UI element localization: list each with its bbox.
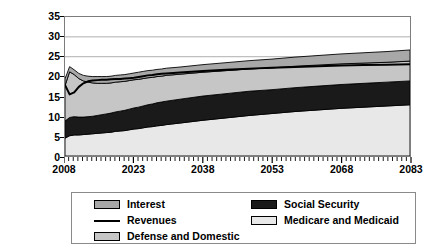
y-axis-tick-mark	[60, 16, 64, 17]
legend-color-swatch	[251, 216, 277, 225]
legend-column-left: InterestRevenuesDefense and Domestic	[94, 197, 240, 245]
y-axis-tick-label: 0	[32, 152, 60, 163]
legend-color-swatch	[251, 200, 277, 209]
legend-label: Medicare and Medicaid	[284, 215, 399, 226]
y-axis-tick-mark	[60, 76, 64, 77]
plot-area	[64, 16, 411, 157]
x-axis-tick-label: 2008	[52, 163, 75, 175]
x-axis-tick-label: 2068	[330, 163, 353, 175]
x-axis-minor-ticks	[64, 157, 413, 164]
legend-color-swatch	[94, 200, 120, 209]
legend-item[interactable]: Social Security	[251, 197, 399, 212]
legend-label: Revenues	[127, 215, 177, 226]
chart-figure: Percentage of Gross Domestic Product 051…	[0, 0, 429, 251]
y-axis-tick-mark	[60, 56, 64, 57]
y-axis-tick-label: 5	[32, 132, 60, 143]
y-axis-tick-mark	[60, 117, 64, 118]
y-axis-tick-mark	[60, 97, 64, 98]
legend-label: Defense and Domestic	[127, 231, 240, 242]
y-axis-tick-label: 20	[32, 71, 60, 82]
y-axis-tick-labels: 05101520253035	[30, 0, 60, 251]
x-axis-tick-label: 2053	[261, 163, 284, 175]
chart-legend: InterestRevenuesDefense and Domestic Soc…	[71, 192, 416, 244]
y-axis-tick-label: 10	[32, 111, 60, 122]
x-axis-tick-label: 2023	[122, 163, 145, 175]
legend-color-swatch	[94, 232, 120, 241]
y-axis-tick-mark	[60, 36, 64, 37]
y-axis-tick-label: 15	[32, 91, 60, 102]
y-axis-tick-label: 30	[32, 31, 60, 42]
legend-line-swatch	[94, 220, 120, 222]
y-axis-tick-label: 25	[32, 51, 60, 62]
chart-canvas	[65, 17, 410, 156]
legend-label: Interest	[127, 199, 165, 210]
y-axis-tick-label: 35	[32, 11, 60, 22]
legend-item[interactable]: Defense and Domestic	[94, 229, 240, 244]
legend-label: Social Security	[284, 199, 359, 210]
y-axis-tick-mark	[60, 137, 64, 138]
legend-column-right: Social SecurityMedicare and Medicaid	[251, 197, 399, 229]
x-axis-tick-label: 2038	[191, 163, 214, 175]
x-axis-tick-label: 2083	[399, 163, 422, 175]
legend-item[interactable]: Revenues	[94, 213, 240, 228]
legend-item[interactable]: Medicare and Medicaid	[251, 213, 399, 228]
legend-item[interactable]: Interest	[94, 197, 240, 212]
